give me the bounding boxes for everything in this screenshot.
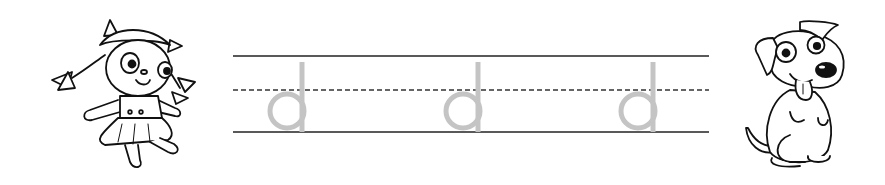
handwriting-worksheet [0,0,885,185]
doll-girl-illustration [52,20,195,167]
tracing-letters [270,62,655,132]
puppy-dog-illustration [746,21,844,166]
letter-d-1 [270,62,304,132]
letter-d-3 [621,62,655,132]
letter-d-2 [446,62,480,132]
